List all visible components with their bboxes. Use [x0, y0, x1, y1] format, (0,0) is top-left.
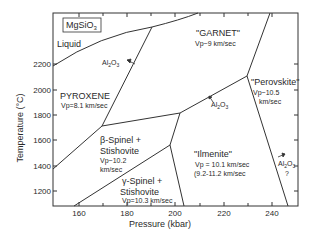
svg-text:2200: 2200 [33, 60, 51, 69]
beta-ilmenite-boundary [170, 113, 180, 145]
phase-boundaries [53, 13, 288, 206]
garnet-perovskite-boundary [247, 13, 270, 76]
label-pyroxene: PYROXENE [60, 91, 110, 101]
plot-frame [53, 13, 298, 206]
label-garnet: "GARNET" [196, 28, 240, 38]
label-ilmenite-velocity: Vp = 10.1 km/sec [195, 161, 250, 169]
svg-text:180: 180 [120, 209, 134, 218]
svg-text:160: 160 [72, 209, 86, 218]
pyroxene-spinel-boundary [53, 126, 102, 169]
label-perovskite-velocity-unit: km/sec [259, 98, 282, 105]
label-beta-stishovite: Stishovite [100, 146, 139, 156]
svg-text:1400: 1400 [33, 162, 51, 171]
label-pyroxene-velocity: Vp=8.1 km/sec [61, 102, 108, 110]
svg-text:200: 200 [168, 209, 182, 218]
svg-text:240: 240 [265, 209, 279, 218]
svg-text:2000: 2000 [33, 86, 51, 95]
label-gamma-spinel: γ-Spinel + [122, 176, 162, 186]
y-axis-title: Temperature (°C) [15, 93, 25, 162]
label-beta-velocity: Vp~10.2 [100, 157, 126, 165]
svg-text:1200: 1200 [33, 187, 51, 196]
label-al2o3-3: Al2O3 [278, 160, 295, 169]
label-beta-spinel: β-Spinel + [100, 135, 141, 145]
x-axis-title: Pressure (kbar) [129, 219, 191, 229]
label-beta-velocity-unit: km/sec [100, 166, 123, 173]
pyroxene-garnet-boundary [102, 27, 152, 126]
svg-text:220: 220 [217, 209, 231, 218]
label-perovskite-velocity: Vp~10.5 [253, 89, 279, 97]
label-liquid: Liquid [57, 39, 81, 49]
label-ilmenite-range: (9.2-11.2 km/sec [194, 170, 246, 178]
x-axis-ticks [79, 13, 272, 206]
label-gamma-stishovite: Stishovite [120, 187, 159, 197]
al2o3-arrows [127, 59, 285, 157]
label-ilmenite: "Ilmenite" [194, 149, 232, 159]
x-tick-labels: 160 180 200 220 240 [72, 209, 279, 218]
label-al2o3-2: Al2O3 [211, 101, 228, 110]
label-al2o3-1: Al2O3 [102, 59, 119, 68]
label-gamma-velocity: Vp=10.3 km/sec [122, 197, 173, 205]
svg-text:1800: 1800 [33, 111, 51, 120]
phase-diagram: MgSiO3 2200 2000 1800 1600 1400 1200 160… [0, 0, 316, 239]
chart-title: MgSiO3 [66, 20, 98, 31]
y-tick-labels: 2200 2000 1800 1600 1400 1200 [33, 60, 51, 196]
beta-garnet-boundary [102, 113, 180, 126]
svg-text:1600: 1600 [33, 136, 51, 145]
label-perovskite: "Perovskite" [251, 77, 299, 87]
label-garnet-velocity: Vp~9 km/sec [195, 40, 236, 48]
label-question: ? [285, 170, 289, 177]
